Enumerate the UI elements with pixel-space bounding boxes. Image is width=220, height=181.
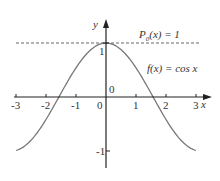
cosine-chart: -3-2-10123 y x 1 -1 0 P0(x) = 1 f(x) = c… bbox=[0, 0, 220, 181]
x-tick-label: -2 bbox=[41, 99, 50, 111]
f-label: f(x) = cos x bbox=[147, 62, 198, 75]
x-tick-label: 1 bbox=[133, 99, 139, 111]
y-tick-label-m1: -1 bbox=[96, 145, 105, 157]
p0-label: P0(x) = 1 bbox=[138, 28, 180, 43]
y-axis-arrow-icon bbox=[103, 19, 109, 28]
x-tick-label: -1 bbox=[71, 99, 80, 111]
x-tick-label: -3 bbox=[11, 99, 21, 111]
x-tick-label: 3 bbox=[193, 99, 199, 111]
x-axis-label: x bbox=[200, 98, 206, 110]
y-tick-label-1: 1 bbox=[99, 45, 105, 57]
x-tick-label: 2 bbox=[163, 99, 169, 111]
y-axis-label: y bbox=[92, 18, 98, 30]
x-tick-label: 0 bbox=[97, 99, 103, 111]
origin-label: 0 bbox=[109, 83, 115, 95]
